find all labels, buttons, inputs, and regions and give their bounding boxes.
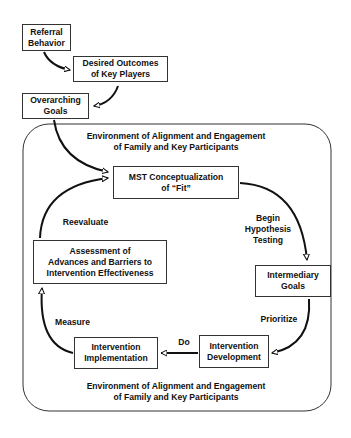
node-text: of “Fit” — [161, 183, 191, 194]
node-text: Behavior — [28, 38, 65, 49]
arrow-intermediary-to-development — [272, 299, 309, 353]
env-text: Environment of Alignment and Engagement — [40, 131, 312, 142]
node-text: Intervention — [91, 342, 140, 353]
node-text: Intermediary — [267, 270, 319, 281]
edge-label-measure: Measure — [50, 317, 95, 328]
node-text: Overarching — [30, 95, 81, 106]
environment-label-top: Environment of Alignment and Engagement … — [40, 131, 312, 153]
node-assessment: Assessment of Advances and Barriers to I… — [33, 240, 167, 284]
node-text: Development — [207, 352, 261, 363]
node-text: Goals — [44, 106, 68, 117]
arrow-desired-to-overarching — [94, 86, 118, 106]
node-text: Advances and Barriers to — [48, 257, 152, 268]
node-text: Referral — [30, 27, 62, 38]
node-text: Desired Outcomes — [83, 58, 159, 69]
node-text: Implementation — [84, 353, 148, 364]
edge-label-hypothesis: Begin Hypothesis Testing — [240, 213, 296, 246]
node-overarching-goals: Overarching Goals — [22, 93, 89, 119]
diagram-canvas — [0, 0, 351, 438]
env-text: Environment of Alignment and Engagement — [40, 381, 312, 392]
env-text: of Family and Key Participants — [40, 142, 312, 153]
edge-label-do: Do — [174, 337, 194, 348]
edge-label-reevaluate: Reevaluate — [58, 217, 113, 228]
node-text: MST Conceptualization — [129, 172, 224, 183]
env-text: of Family and Key Participants — [40, 392, 312, 403]
arrow-assessment-to-mst — [40, 178, 108, 238]
node-referral-behavior: Referral Behavior — [22, 24, 71, 51]
arrow-referral-to-desired — [44, 52, 70, 70]
node-text: Assessment of — [69, 246, 130, 257]
node-text: of Key Players — [91, 69, 150, 80]
node-intervention-implementation: Intervention Implementation — [74, 337, 158, 369]
node-text: Goals — [281, 281, 305, 292]
node-intermediary-goals: Intermediary Goals — [255, 265, 331, 297]
node-mst-conceptualization: MST Conceptualization of “Fit” — [113, 166, 239, 199]
node-text: Intervention — [209, 341, 258, 352]
node-intervention-development: Intervention Development — [199, 335, 269, 368]
edge-label-prioritize: Prioritize — [254, 314, 304, 325]
node-text: Intervention Effectiveness — [47, 268, 154, 279]
environment-label-bottom: Environment of Alignment and Engagement … — [40, 381, 312, 403]
node-desired-outcomes: Desired Outcomes of Key Players — [73, 56, 168, 82]
